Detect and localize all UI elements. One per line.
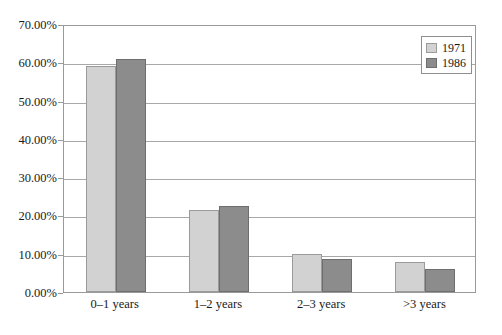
y-axis-tick-label: 60.00% <box>0 57 57 70</box>
y-axis-tick-label: 40.00% <box>0 134 57 147</box>
y-axis-tick-label: 20.00% <box>0 210 57 223</box>
bar-1971-2-3-years <box>292 254 322 292</box>
bar-1971-1-2-years <box>189 210 219 292</box>
y-axis-tick-label: 0.00% <box>0 287 57 300</box>
bar-1986-2-3-years <box>322 259 352 292</box>
legend-item-1971: 1971 <box>426 40 466 55</box>
bars-layer <box>64 26 475 292</box>
bar-1986--3-years <box>425 269 455 292</box>
bar-1971-0-1-years <box>86 66 116 292</box>
x-axis-tick-label: 0–1 years <box>91 298 139 311</box>
legend: 19711986 <box>421 36 472 74</box>
x-axis: 0–1 years1–2 years2–3 years>3 years <box>63 298 476 324</box>
x-axis-tick-label: 1–2 years <box>194 298 242 311</box>
y-axis-tick-label: 30.00% <box>0 172 57 185</box>
plot-area <box>63 25 476 293</box>
legend-item-label: 1971 <box>442 42 466 54</box>
bar-1986-1-2-years <box>219 206 249 292</box>
legend-item-1986: 1986 <box>426 55 466 70</box>
bar-1986-0-1-years <box>116 59 146 292</box>
x-axis-tick-label: >3 years <box>403 298 446 311</box>
y-axis-tick-mark <box>58 293 63 294</box>
y-axis-tick-label: 50.00% <box>0 95 57 108</box>
legend-item-label: 1986 <box>442 57 466 69</box>
legend-swatch-icon <box>426 58 437 68</box>
legend-swatch-icon <box>426 43 437 53</box>
x-axis-tick-label: 2–3 years <box>297 298 345 311</box>
bar-1971--3-years <box>395 262 425 292</box>
y-axis-tick-label: 10.00% <box>0 248 57 261</box>
y-axis-tick-label: 70.00% <box>0 19 57 32</box>
grouped-bar-chart: 0.00%10.00%20.00%30.00%40.00%50.00%60.00… <box>0 0 502 335</box>
